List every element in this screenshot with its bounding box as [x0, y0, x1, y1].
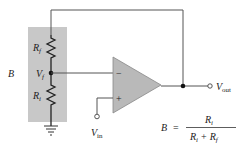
noninverting-input-wire: [97, 98, 113, 114]
opamp-icon: [113, 57, 161, 113]
feedback-factor-formula: B = Ri Ri+Rf: [161, 114, 236, 144]
ground-icon: [44, 126, 58, 135]
vout-label: Vout: [216, 81, 231, 94]
svg-text:Ri: Ri: [204, 114, 213, 127]
minus-sign: −: [116, 68, 122, 79]
svg-text:Ri+Rf: Ri+Rf: [189, 131, 219, 144]
circuit-diagram: − + B Rf Ri Vf Vin Vout B = Ri Ri+Rf: [0, 0, 247, 148]
svg-text:=: =: [173, 122, 179, 133]
output-node: [181, 84, 186, 89]
plus-sign: +: [116, 93, 122, 104]
svg-text:B: B: [161, 122, 167, 133]
vin-terminal: [95, 114, 100, 119]
vin-label: Vin: [91, 127, 103, 140]
block-label-b: B: [8, 68, 14, 79]
vout-terminal: [208, 84, 212, 88]
